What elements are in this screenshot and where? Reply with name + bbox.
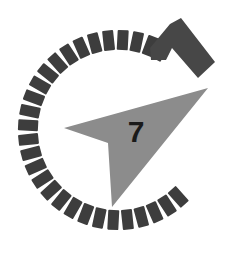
dial-tick xyxy=(117,30,129,51)
dial-numeral: 7 xyxy=(128,115,145,148)
dial-tick xyxy=(107,210,119,231)
dial-tick xyxy=(18,119,39,131)
dial-tick xyxy=(121,209,134,230)
dial-tick xyxy=(102,30,115,51)
dial-tick xyxy=(18,133,39,146)
icon-canvas: 7 xyxy=(0,0,236,267)
stopwatch-icon: 7 xyxy=(0,0,236,267)
